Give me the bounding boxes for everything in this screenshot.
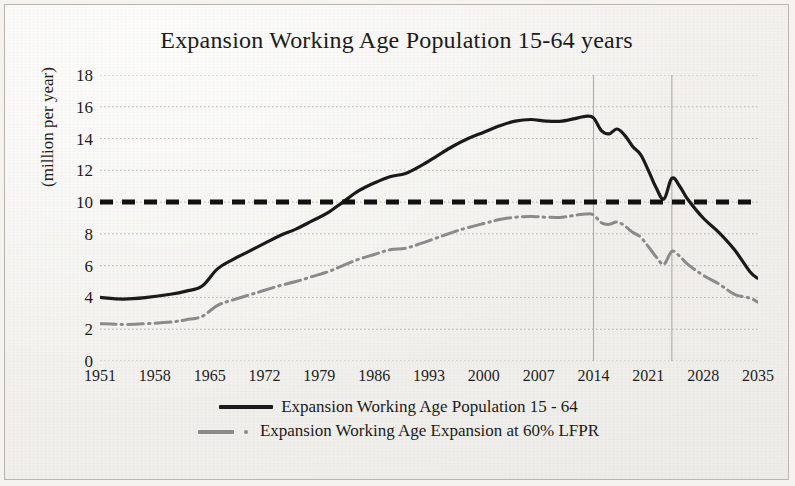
- y-tick-label: 16: [59, 98, 93, 115]
- x-tick-label: 1986: [344, 367, 404, 385]
- chart-frame: Expansion Working Age Population 15-64 y…: [4, 4, 789, 480]
- legend-item-lfpr-expansion: Expansion Working Age Expansion at 60% L…: [194, 421, 599, 441]
- x-tick-label: 2028: [673, 367, 733, 385]
- y-tick-label: 12: [59, 162, 93, 179]
- chart-svg: [100, 75, 758, 361]
- series-line-0: [100, 116, 758, 299]
- x-tick-label: 1993: [399, 367, 459, 385]
- y-tick-label: 18: [59, 67, 93, 84]
- x-tick-label: 2000: [454, 367, 514, 385]
- x-tick-label: 2035: [728, 367, 788, 385]
- legend-swatch-dash-dot-line: [194, 424, 256, 438]
- y-tick-label: 2: [59, 321, 93, 338]
- x-tick-label: 2014: [564, 367, 624, 385]
- x-tick-label: 2021: [618, 367, 678, 385]
- legend-label-working-age-population: Expansion Working Age Population 15 - 64: [281, 397, 578, 417]
- y-tick-label: 14: [59, 130, 93, 147]
- y-tick-label: 8: [59, 225, 93, 242]
- y-tick-label: 4: [59, 289, 93, 306]
- y-axis-label: (million per year): [38, 12, 58, 242]
- x-tick-label: 2007: [509, 367, 569, 385]
- x-tick-label: 1951: [70, 367, 130, 385]
- chart-legend: Expansion Working Age Population 15 - 64…: [5, 397, 788, 441]
- y-tick-label: 10: [59, 194, 93, 211]
- legend-label-lfpr-expansion: Expansion Working Age Expansion at 60% L…: [260, 421, 599, 441]
- x-tick-label: 1979: [289, 367, 349, 385]
- x-tick-label: 1972: [235, 367, 295, 385]
- series-line-1: [100, 214, 758, 325]
- chart-title: Expansion Working Age Population 15-64 y…: [5, 27, 788, 54]
- plot-area: [100, 75, 758, 361]
- y-tick-label: 6: [59, 257, 93, 274]
- legend-item-working-age-population: Expansion Working Age Population 15 - 64: [215, 397, 578, 417]
- legend-swatch-solid-line: [215, 400, 277, 414]
- x-tick-label: 1958: [125, 367, 185, 385]
- x-axis-tick-labels: 1951195819651972197919861993200020072014…: [5, 367, 795, 393]
- vertical-gridlines: [594, 75, 672, 361]
- series-layer: [100, 116, 758, 324]
- x-tick-label: 1965: [180, 367, 240, 385]
